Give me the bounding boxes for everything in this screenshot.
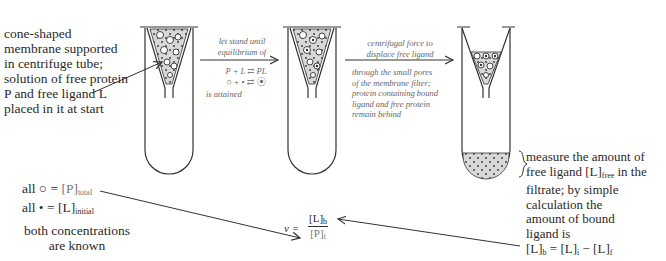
legend-value: [P]	[61, 181, 78, 196]
nu-numerator: [L]b	[308, 212, 328, 227]
step2-detail: through the small pores of the membrane …	[352, 67, 438, 120]
legend: all ○ = [P]total all • = [L]initial	[22, 181, 94, 219]
legend-ligand: all • = [L]initial	[22, 200, 94, 219]
subscript: free	[602, 171, 614, 180]
measure-line: calculation the	[526, 198, 647, 213]
nu-symbol: ν =	[284, 222, 299, 234]
nu-denominator: [P]t	[308, 227, 328, 241]
measure-note: measure the amount of free ligand [L]fre…	[526, 150, 647, 260]
known-note: both concentrations are known	[22, 223, 132, 253]
subscript: total	[78, 188, 92, 197]
measure-free-ligand: free ligand [L]	[526, 164, 602, 179]
equilibrium-eq: P + L ⇄ PL	[216, 66, 276, 77]
subscript: t	[324, 232, 326, 241]
measure-line: filtrate; by simple	[526, 183, 647, 198]
eq-part: − [L]	[579, 241, 609, 256]
start-note-line: P and free ligand L	[4, 86, 128, 101]
equilibrium-symbols: ○ + • ⇄ ⦿	[216, 77, 276, 88]
denominator: [P]	[310, 227, 323, 239]
subscript: b	[323, 217, 327, 226]
step1-attained: is attained	[206, 89, 242, 100]
eq-part: [L]	[526, 241, 543, 256]
step2-line: protein containing bound	[352, 88, 438, 99]
step2-line: ligand and free protein	[352, 99, 438, 110]
tube-2	[283, 27, 341, 174]
step2-line: displace free ligand	[360, 49, 440, 60]
step2-line: of the membrane filter;	[352, 78, 438, 89]
measure-line: free ligand [L]free in the	[526, 165, 647, 184]
measure-line: amount of bound	[526, 212, 647, 227]
start-note-line: cone-shaped	[4, 26, 128, 41]
tube-1	[140, 27, 198, 174]
step1-line: let stand until	[207, 36, 277, 47]
tube-3	[457, 27, 527, 179]
start-note-line: membrane supported	[4, 41, 128, 56]
legend-value: [L]	[58, 200, 75, 215]
measure-text: in the	[614, 164, 647, 179]
legend-label: all • =	[22, 200, 58, 215]
nu-formula: ν =	[284, 215, 299, 227]
step2-caption: centrifugal force to displace free ligan…	[360, 38, 440, 59]
eq-part: = [L]	[547, 241, 577, 256]
subscript: f	[610, 248, 613, 257]
measure-line: ligand is	[526, 227, 647, 242]
step2-line: centrifugal force to	[360, 38, 440, 49]
step2-line: remain behind	[352, 109, 438, 120]
nu-fraction: [L]b [P]t	[308, 212, 328, 241]
known-line: both concentrations	[22, 223, 132, 238]
numerator: [L]	[309, 212, 323, 224]
known-line: are known	[22, 238, 132, 253]
step1-equation: P + L ⇄ PL ○ + • ⇄ ⦿	[216, 66, 276, 87]
start-note-line: in centrifuge tube;	[4, 56, 128, 71]
step1-caption: let stand until equilibrium of	[207, 36, 277, 57]
legend-protein: all ○ = [P]total	[22, 181, 94, 200]
subscript: initial	[75, 207, 94, 216]
start-note-line: solution of free protein	[4, 71, 128, 86]
bound-ligand-equation: [L]b = [L]i − [L]f	[526, 242, 647, 261]
step1-line: equilibrium of	[207, 47, 277, 58]
start-note-line: placed in it at start	[4, 101, 128, 116]
start-note: cone-shaped membrane supported in centri…	[4, 26, 128, 116]
pointer-lbound	[338, 219, 520, 246]
legend-label: all ○ =	[22, 181, 61, 196]
measure-line: measure the amount of	[526, 150, 647, 165]
step2-line: through the small pores	[352, 67, 438, 78]
